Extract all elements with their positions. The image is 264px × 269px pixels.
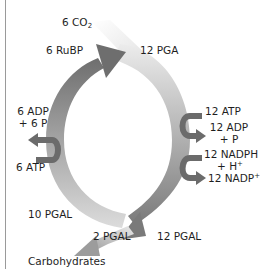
left-arc-arrow bbox=[46, 44, 126, 228]
label-atp6: 6 ATP bbox=[16, 161, 45, 173]
nadph-hook-right bbox=[183, 158, 207, 185]
label-pgal2: 2 PGAL bbox=[93, 230, 131, 242]
label-co2: 6 CO2 bbox=[62, 16, 92, 28]
label-nadph: 12 NADPH + H+ bbox=[204, 148, 256, 172]
label-atp12: 12 ATP bbox=[205, 105, 241, 117]
label-nadp: 12 NADP+ bbox=[208, 172, 260, 184]
label-adp12: 12 ADP + P bbox=[206, 121, 252, 145]
label-rubp: 6 RuBP bbox=[46, 44, 83, 56]
label-pgal10: 10 PGAL bbox=[28, 208, 72, 220]
label-pga: 12 PGA bbox=[140, 44, 178, 56]
label-carbohydrates: Carbohydrates bbox=[28, 255, 106, 267]
label-adp6: 6 ADP + 6 P bbox=[16, 105, 50, 129]
right-arc-arrow bbox=[114, 44, 190, 240]
label-pgal12: 12 PGAL bbox=[157, 230, 201, 242]
